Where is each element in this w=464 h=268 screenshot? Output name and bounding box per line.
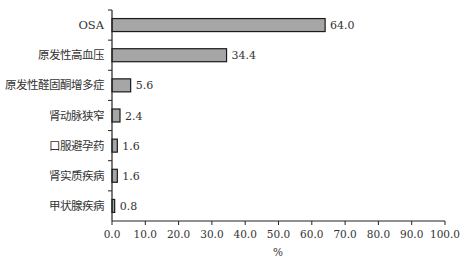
category-label: 肾动脉狭窄 xyxy=(49,109,104,123)
bar xyxy=(112,19,325,32)
x-tick-label: 80.0 xyxy=(367,228,390,240)
x-tick-label: 100.0 xyxy=(430,228,460,240)
value-label: 64.0 xyxy=(330,19,355,32)
x-tick-label: 0.0 xyxy=(104,228,121,240)
bar xyxy=(112,139,117,152)
bar xyxy=(112,79,131,92)
bar-chart: OSA64.0原发性高血压34.4原发性醛固酮增多症5.6肾动脉狭窄2.4口服避… xyxy=(0,0,464,268)
x-tick-label: 60.0 xyxy=(300,228,323,240)
value-label: 1.6 xyxy=(122,170,140,183)
axes-group: 0.010.020.030.040.050.060.070.080.090.01… xyxy=(104,10,460,240)
value-label: 1.6 xyxy=(122,140,140,153)
value-label: 5.6 xyxy=(136,79,154,92)
category-label: 口服避孕药 xyxy=(49,139,104,153)
category-label: 原发性醛固酮增多症 xyxy=(5,78,105,92)
bar xyxy=(112,109,120,122)
value-label: 0.8 xyxy=(120,200,138,213)
x-tick-label: 20.0 xyxy=(167,228,190,240)
category-label: OSA xyxy=(78,18,104,32)
x-tick-label: 50.0 xyxy=(267,228,290,240)
bar xyxy=(112,49,227,62)
x-tick-label: 90.0 xyxy=(400,228,423,240)
x-tick-label: 10.0 xyxy=(134,228,157,240)
x-tick-label: 70.0 xyxy=(333,228,356,240)
category-label: 原发性高血压 xyxy=(38,48,104,62)
category-label: 甲状腺疾病 xyxy=(49,199,105,213)
value-label: 2.4 xyxy=(125,110,143,123)
x-tick-label: 40.0 xyxy=(234,228,257,240)
x-axis-label: % xyxy=(273,246,283,258)
value-label: 34.4 xyxy=(232,49,257,62)
bar xyxy=(112,169,117,182)
x-tick-label: 30.0 xyxy=(200,228,223,240)
bars-group: OSA64.0原发性高血压34.4原发性醛固酮增多症5.6肾动脉狭窄2.4口服避… xyxy=(5,18,355,213)
category-label: 肾实质疾病 xyxy=(49,169,105,183)
